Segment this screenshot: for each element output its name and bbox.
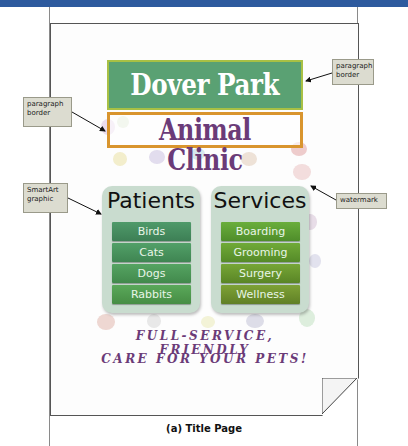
patients-heading: Patients bbox=[102, 188, 200, 213]
callout-paragraph-border-right: paragraph border bbox=[332, 59, 374, 85]
callout-paragraph-border-left: paragraph border bbox=[23, 97, 72, 127]
services-item: Boarding bbox=[221, 222, 300, 241]
services-item: Wellness bbox=[221, 285, 300, 304]
tagline-line2: Care for Your Pets! bbox=[90, 352, 320, 366]
services-heading: Services bbox=[211, 188, 309, 213]
top-banner bbox=[0, 0, 408, 7]
patients-item: Dogs bbox=[112, 264, 191, 283]
figure-caption: (a) Title Page bbox=[0, 423, 408, 434]
gridline-left bbox=[49, 7, 50, 446]
title-dover-park: Dover Park bbox=[107, 60, 303, 110]
patients-item: Birds bbox=[112, 222, 191, 241]
patients-item: Rabbits bbox=[112, 285, 191, 304]
smartart-patients: Patients Birds Cats Dogs Rabbits bbox=[102, 186, 200, 313]
title-line2: Animal Clinic bbox=[127, 115, 283, 175]
patients-item: Cats bbox=[112, 243, 191, 262]
services-item: Grooming bbox=[221, 243, 300, 262]
title-animal-clinic: Animal Clinic bbox=[107, 112, 303, 148]
callout-watermark: watermark bbox=[336, 193, 387, 209]
folded-corner bbox=[322, 378, 357, 414]
callout-smartart-graphic: SmartArt graphic bbox=[23, 183, 68, 213]
title-line1: Dover Park bbox=[131, 62, 280, 108]
smartart-services: Services Boarding Grooming Surgery Welln… bbox=[211, 186, 309, 313]
services-item: Surgery bbox=[221, 264, 300, 283]
